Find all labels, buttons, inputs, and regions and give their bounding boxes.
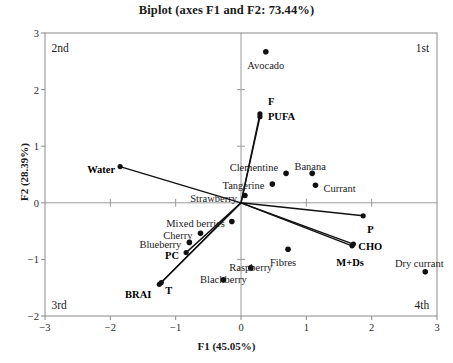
observation-point bbox=[313, 182, 319, 188]
quadrant-label-4th: 4th bbox=[414, 299, 429, 311]
vector-endpoint bbox=[349, 243, 354, 248]
vector-endpoint bbox=[159, 280, 164, 285]
observation-label: Tangerine bbox=[223, 180, 265, 191]
x-tick-label: −3 bbox=[39, 322, 50, 333]
vector-endpoint bbox=[257, 114, 262, 119]
y-axis-title: F2 (28.39%) bbox=[18, 102, 30, 242]
variable-label: Water bbox=[87, 164, 115, 175]
observation-point bbox=[198, 231, 204, 237]
y-tick-label: −2 bbox=[19, 311, 39, 322]
y-tick-label: −1 bbox=[19, 254, 39, 265]
variable-label: BRAI bbox=[125, 289, 151, 300]
x-axis-title: F1 (45.05%) bbox=[0, 340, 453, 352]
observation-point bbox=[229, 219, 235, 225]
observation-point bbox=[263, 49, 269, 55]
observation-label: Blackberry bbox=[200, 274, 247, 285]
observation-point bbox=[270, 181, 276, 187]
observation-label: Avocado bbox=[247, 60, 284, 71]
variable-vector bbox=[241, 203, 355, 249]
observation-point bbox=[285, 246, 291, 252]
y-tick-label: 2 bbox=[19, 84, 39, 95]
variable-label: M+Ds bbox=[336, 257, 364, 268]
vector-endpoint bbox=[361, 213, 366, 218]
observation-point bbox=[242, 193, 248, 199]
observation-point bbox=[283, 171, 289, 177]
observation-label: Fibres bbox=[270, 257, 296, 268]
variable-label: P bbox=[367, 224, 373, 235]
biplot-figure: Biplot (axes F1 and F2: 73.44%) −3−2−101… bbox=[0, 0, 453, 363]
observation-label: Mixed berries bbox=[166, 218, 225, 229]
observation-label: Raspberry bbox=[229, 262, 272, 273]
observation-label: Banana bbox=[294, 161, 326, 172]
variable-label: T bbox=[165, 285, 172, 296]
quadrant-label-1st: 1st bbox=[416, 42, 429, 54]
observation-label: Currant bbox=[323, 183, 355, 194]
x-tick-label: 3 bbox=[434, 322, 439, 333]
variable-label: PC bbox=[165, 250, 179, 261]
observation-label: Dry currant bbox=[395, 258, 444, 269]
observation-label: Strawberry bbox=[190, 193, 237, 204]
quadrant-label-2nd: 2nd bbox=[52, 42, 69, 54]
y-tick-label: 3 bbox=[19, 28, 39, 39]
x-tick-label: −2 bbox=[105, 322, 116, 333]
variable-label: F bbox=[268, 96, 274, 107]
x-tick-label: 0 bbox=[238, 322, 243, 333]
variable-label: PUFA bbox=[268, 111, 295, 122]
vector-endpoint bbox=[118, 164, 123, 169]
observation-label: Clementine bbox=[230, 162, 278, 173]
vector-endpoint bbox=[184, 250, 189, 255]
quadrant-label-3rd: 3rd bbox=[52, 299, 67, 311]
x-tick-label: −1 bbox=[170, 322, 181, 333]
observation-point bbox=[422, 269, 428, 275]
x-tick-label: 1 bbox=[304, 322, 309, 333]
x-tick-label: 2 bbox=[369, 322, 374, 333]
variable-label: CHO bbox=[358, 241, 382, 252]
